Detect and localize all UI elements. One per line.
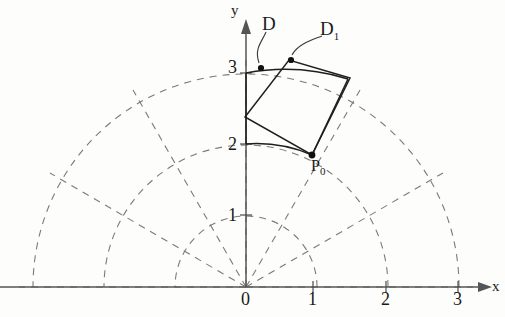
polar-figure: x y 0 1 2 3 1 2 3 D D1 P0 bbox=[0, 0, 505, 317]
axes bbox=[0, 22, 478, 287]
polar-ray-60 bbox=[246, 90, 360, 287]
x-axis-arrow bbox=[478, 282, 492, 292]
y-tick-label-3: 3 bbox=[228, 58, 237, 76]
region-D-dot bbox=[258, 65, 264, 71]
x-tick-label-0: 0 bbox=[241, 290, 250, 308]
x-tick-label-1: 1 bbox=[308, 290, 317, 308]
point-label-P0-subscript: 0 bbox=[320, 165, 326, 177]
region-label-D: D bbox=[262, 14, 276, 33]
leader-line-D1 bbox=[292, 36, 322, 55]
x-axis-label: x bbox=[492, 279, 500, 294]
y-axis-arrow bbox=[241, 19, 251, 34]
figure-canvas bbox=[0, 0, 505, 317]
region-label-D1: D1 bbox=[320, 19, 339, 42]
region-D1-dot bbox=[288, 57, 294, 63]
y-tick-label-2: 2 bbox=[228, 135, 237, 153]
x-tick-label-3: 3 bbox=[453, 290, 462, 308]
y-tick-label-1: 1 bbox=[228, 206, 237, 224]
leader-line-D bbox=[257, 32, 266, 63]
axis-ticks bbox=[240, 73, 458, 293]
y-axis-label: y bbox=[231, 3, 239, 18]
polar-ray-150 bbox=[50, 173, 246, 287]
point-label-P0: P0 bbox=[311, 158, 325, 177]
point-label-P0-base: P bbox=[311, 157, 320, 174]
x-tick-label-2: 2 bbox=[381, 290, 390, 308]
polar-ray-120 bbox=[133, 90, 246, 287]
region-label-D1-base: D bbox=[320, 18, 334, 39]
region-label-D1-subscript: 1 bbox=[334, 30, 340, 42]
polar-ray-30 bbox=[246, 173, 443, 287]
